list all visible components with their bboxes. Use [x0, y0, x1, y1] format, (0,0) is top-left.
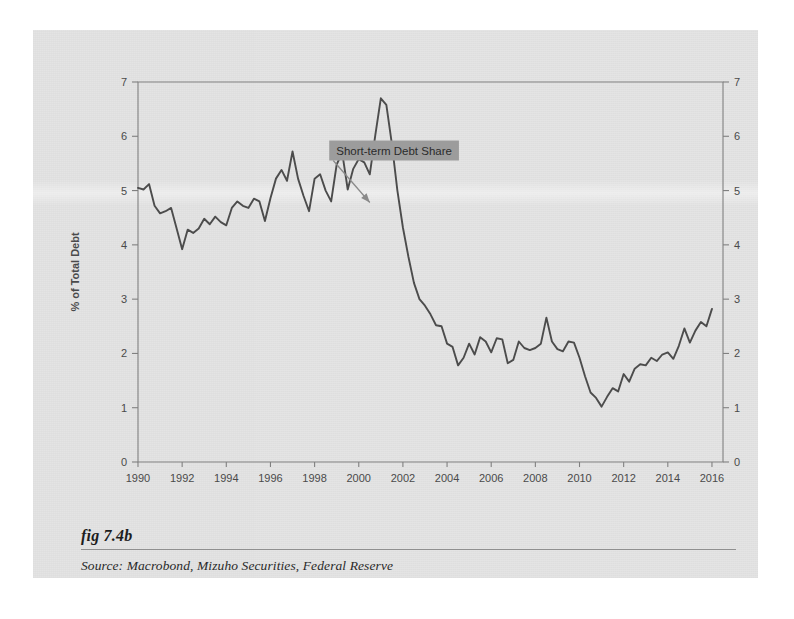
y-axis-left: 01234567	[121, 76, 138, 468]
y-tick-label-left: 1	[121, 402, 127, 414]
y-axis-title: % of Total Debt	[69, 232, 81, 312]
x-tick-label: 2014	[656, 472, 680, 484]
chart-area: 01234567 01234567 1990199219941996199820…	[33, 30, 758, 490]
y-tick-label-right: 5	[734, 185, 740, 197]
caption-block: fig 7.4b Source: Macrobond, Mizuho Secur…	[81, 527, 736, 574]
figure-page: 01234567 01234567 1990199219941996199820…	[0, 0, 794, 619]
x-tick-label: 1996	[258, 472, 282, 484]
y-tick-label-left: 6	[121, 130, 127, 142]
figure-source: Source: Macrobond, Mizuho Securities, Fe…	[81, 558, 736, 574]
y-tick-label-right: 1	[734, 402, 740, 414]
y-tick-label-left: 3	[121, 293, 127, 305]
x-tick-label: 2010	[567, 472, 591, 484]
x-axis: 1990199219941996199820002002200420062008…	[126, 462, 724, 484]
y-axis-right: 01234567	[723, 76, 740, 468]
figure-panel: 01234567 01234567 1990199219941996199820…	[33, 30, 758, 578]
line-chart: 01234567 01234567 1990199219941996199820…	[33, 30, 758, 490]
x-tick-label: 2012	[611, 472, 635, 484]
x-tick-label: 1998	[302, 472, 326, 484]
y-tick-label-left: 7	[121, 76, 127, 88]
y-tick-label-right: 6	[734, 130, 740, 142]
y-tick-label-right: 4	[734, 239, 740, 251]
x-tick-label: 1994	[214, 472, 238, 484]
plot-frame	[138, 82, 723, 462]
x-tick-label: 2000	[347, 472, 371, 484]
x-tick-label: 2016	[700, 472, 724, 484]
y-tick-label-left: 2	[121, 347, 127, 359]
y-tick-label-right: 3	[734, 293, 740, 305]
y-tick-label-right: 0	[734, 456, 740, 468]
figure-number: fig 7.4b	[81, 527, 736, 549]
x-tick-label: 2002	[391, 472, 415, 484]
x-tick-label: 1990	[126, 472, 150, 484]
x-tick-label: 2008	[523, 472, 547, 484]
caption-divider	[81, 549, 736, 550]
y-tick-label-right: 7	[734, 76, 740, 88]
y-tick-label-left: 5	[121, 185, 127, 197]
x-tick-label: 2006	[479, 472, 503, 484]
x-tick-label: 1992	[170, 472, 194, 484]
y-tick-label-right: 2	[734, 347, 740, 359]
annotation-label-text: Short-term Debt Share	[336, 145, 452, 157]
x-tick-label: 2004	[435, 472, 459, 484]
annotation-short-term-debt-share: Short-term Debt Share	[329, 141, 459, 203]
y-tick-label-left: 0	[121, 456, 127, 468]
y-tick-label-left: 4	[121, 239, 127, 251]
